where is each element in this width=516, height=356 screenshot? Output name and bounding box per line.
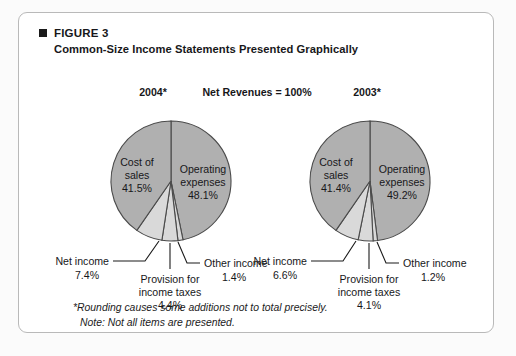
pie-leader-lines-2003 (311, 241, 399, 269)
slice-label-operating-expenses-line1: Operating (180, 163, 227, 175)
pie-leader-lines-2004 (113, 241, 200, 269)
callout-label-net-income: Net income (253, 255, 307, 267)
leader-line-net-income (113, 241, 159, 261)
callout-label-provision-line1: Provision for (340, 273, 399, 285)
callout-value-net-income: 6.6% (273, 269, 298, 281)
callout-value-net-income: 7.4% (75, 269, 100, 281)
callout-value-provision: 4.1% (357, 299, 382, 309)
figure-footnotes: *Rounding causes some additions not to t… (73, 300, 328, 330)
slice-label-operating-expenses-line2: expenses (379, 176, 424, 188)
column-header-right: 2003* (353, 86, 381, 98)
callout-label-other-income: Other income (403, 257, 467, 269)
footnote-note: Note: Not all items are presented. (73, 315, 328, 330)
leader-line-net-income (311, 241, 356, 261)
slice-label-cost-of-sales-line1: Cost of (120, 156, 154, 168)
column-header-center: Net Revenues = 100% (202, 86, 311, 98)
callout-value-other-income: 1.4% (222, 271, 247, 283)
callout-label-provision-line2: income taxes (139, 286, 201, 298)
slice-label-operating-expenses-line1: Operating (379, 163, 426, 175)
callout-label-provision-line2: income taxes (338, 286, 400, 298)
column-header-left: 2004* (139, 86, 167, 98)
callout-label-provision-line1: Provision for (141, 273, 200, 285)
column-header-row: 2004* Net Revenues = 100% 2003* (19, 86, 495, 102)
slice-value-cost-of-sales: 41.5% (122, 182, 153, 194)
square-bullet-icon (39, 29, 47, 37)
slice-label-cost-of-sales-line2: sales (125, 169, 150, 181)
pie-chart-2004: Cost of sales 41.5% Operating expenses 4… (37, 109, 269, 309)
leader-line-other-income (377, 242, 399, 263)
slice-value-operating-expenses: 48.1% (188, 189, 219, 201)
footnote-rounding: *Rounding causes some additions not to t… (73, 300, 328, 315)
slice-label-operating-expenses-line2: expenses (180, 176, 225, 188)
pie-chart-2003-svg: Cost of sales 41.4% Operating expenses 4… (251, 109, 483, 309)
slice-value-operating-expenses: 49.2% (387, 189, 418, 201)
slice-label-cost-of-sales-line1: Cost of (319, 156, 353, 168)
slice-label-cost-of-sales-line2: sales (324, 169, 349, 181)
callout-label-net-income: Net income (55, 255, 109, 267)
slice-value-cost-of-sales: 41.4% (321, 182, 352, 194)
figure-frame: FIGURE 3 Common-Size Income Statements P… (18, 12, 494, 333)
figure-subtitle: Common-Size Income Statements Presented … (54, 43, 358, 55)
figure-label-row: FIGURE 3 (39, 27, 358, 39)
leader-line-other-income (178, 242, 200, 263)
pie-chart-2003: Cost of sales 41.4% Operating expenses 4… (251, 109, 483, 309)
pie-chart-2004-svg: Cost of sales 41.5% Operating expenses 4… (37, 109, 269, 309)
callout-value-other-income: 1.2% (421, 271, 446, 283)
figure-header: FIGURE 3 Common-Size Income Statements P… (39, 27, 358, 55)
figure-label: FIGURE 3 (54, 27, 109, 39)
